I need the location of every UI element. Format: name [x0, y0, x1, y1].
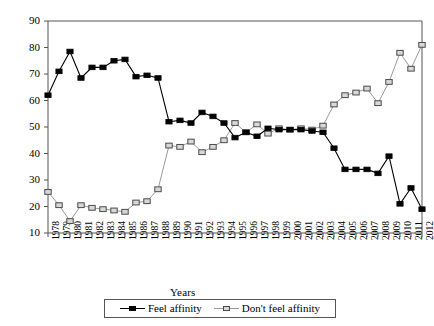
- data-point: [100, 207, 106, 212]
- legend-label-dont-feel-affinity: Don't feel affinity: [242, 303, 320, 314]
- data-point: [397, 202, 403, 207]
- legend-label-feel-affinity: Feel affinity: [148, 303, 202, 314]
- data-point: [353, 90, 359, 95]
- data-point: [375, 101, 381, 106]
- data-point: [111, 208, 117, 213]
- data-point: [243, 130, 249, 135]
- data-point: [56, 203, 62, 208]
- data-point: [133, 74, 139, 79]
- data-point: [155, 76, 161, 81]
- legend-item-dont-feel-affinity: Don't feel affinity: [214, 303, 320, 314]
- data-point: [232, 121, 238, 126]
- data-point: [375, 171, 381, 176]
- data-point: [133, 200, 139, 205]
- data-point: [265, 126, 271, 131]
- data-point: [408, 66, 414, 71]
- data-point: [188, 121, 194, 126]
- data-point: [419, 42, 425, 47]
- data-point: [45, 93, 51, 98]
- data-point: [265, 131, 271, 136]
- data-point: [100, 65, 106, 70]
- plot-area: [0, 0, 434, 326]
- data-point: [331, 146, 337, 151]
- data-point: [199, 110, 205, 115]
- data-point: [232, 135, 238, 140]
- data-point: [276, 127, 282, 132]
- data-point: [89, 205, 95, 210]
- data-point: [122, 57, 128, 62]
- data-point: [397, 50, 403, 55]
- data-point: [386, 80, 392, 85]
- data-point: [320, 123, 326, 128]
- hollow-square-icon: [214, 306, 239, 311]
- data-point: [67, 49, 73, 54]
- data-point: [56, 69, 62, 74]
- data-point: [89, 65, 95, 70]
- data-point: [67, 219, 73, 224]
- data-point: [364, 86, 370, 91]
- chart-legend: Feel affinity Don't feel affinity: [104, 299, 336, 318]
- data-point: [155, 187, 161, 192]
- data-point: [199, 150, 205, 155]
- data-point: [364, 167, 370, 172]
- data-point: [287, 127, 293, 132]
- data-point: [78, 203, 84, 208]
- data-point: [342, 93, 348, 98]
- data-point: [298, 127, 304, 132]
- data-point: [331, 102, 337, 107]
- data-point: [210, 114, 216, 119]
- data-point: [386, 154, 392, 159]
- data-point: [188, 139, 194, 144]
- data-point: [177, 144, 183, 149]
- data-point: [342, 167, 348, 172]
- data-point: [144, 199, 150, 204]
- legend-item-feel-affinity: Feel affinity: [120, 303, 202, 314]
- data-point: [122, 209, 128, 214]
- data-point: [166, 119, 172, 124]
- affinity-line-chart: Percentage Years 102030405060708090 1978…: [0, 0, 434, 326]
- data-point: [111, 58, 117, 63]
- data-point: [419, 207, 425, 212]
- data-point: [45, 190, 51, 195]
- data-point: [210, 144, 216, 149]
- data-point: [408, 186, 414, 191]
- data-point: [78, 76, 84, 81]
- data-point: [309, 129, 315, 134]
- data-point: [177, 118, 183, 123]
- data-point: [144, 73, 150, 78]
- data-point: [254, 122, 260, 127]
- data-point: [353, 167, 359, 172]
- data-point: [221, 121, 227, 126]
- data-point: [221, 138, 227, 143]
- data-point: [320, 130, 326, 135]
- filled-square-icon: [120, 306, 145, 311]
- data-point: [166, 143, 172, 148]
- data-point: [254, 134, 260, 139]
